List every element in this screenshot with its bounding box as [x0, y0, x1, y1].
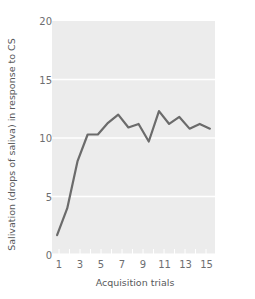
x-tick-label: 1 — [49, 259, 69, 270]
x-tick-label: 7 — [112, 259, 132, 270]
y-tick-label: 5 — [24, 191, 52, 202]
plot-area — [52, 21, 215, 255]
x-tick-label: 11 — [155, 259, 175, 270]
chart-svg — [52, 21, 215, 255]
y-tick-label: 0 — [24, 250, 52, 261]
x-axis-title: Acquisition trials — [40, 277, 230, 288]
x-tick-label: 5 — [91, 259, 111, 270]
y-axis-title: Salivation (drops of saliva) in response… — [0, 22, 22, 267]
data-line-salivation — [57, 111, 210, 235]
x-tick-label: 15 — [197, 259, 217, 270]
y-tick-label: 15 — [24, 74, 52, 85]
y-tick-label: 20 — [24, 16, 52, 27]
chart-figure: Salivation (drops of saliva) in response… — [0, 0, 255, 299]
x-tick-label: 13 — [176, 259, 196, 270]
x-tick-label: 3 — [70, 259, 90, 270]
x-tick-label: 9 — [133, 259, 153, 270]
y-tick-label: 10 — [24, 133, 52, 144]
